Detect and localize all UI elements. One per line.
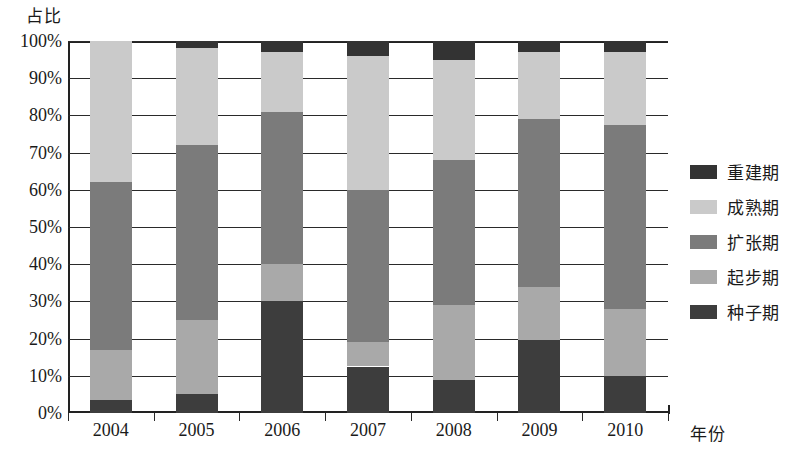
bar-segment-起步期: [433, 305, 475, 379]
x-axis-tick-label-2007: 2007: [333, 420, 403, 441]
bar-segment-成熟期: [261, 52, 303, 112]
bar-segment-扩张期: [176, 145, 218, 320]
y-axis-tick-label: 100%: [20, 32, 62, 50]
x-axis-tick: [497, 413, 498, 421]
bar-segment-种子期: [518, 340, 560, 413]
bar-segment-重建期: [261, 41, 303, 52]
bar-segment-成熟期: [604, 52, 646, 125]
y-axis-title: 占比: [26, 2, 62, 27]
bar-segment-重建期: [347, 41, 389, 56]
x-axis-tick: [68, 413, 69, 421]
x-axis-title: 年份: [690, 420, 726, 445]
bar-segment-起步期: [176, 320, 218, 394]
x-axis-tick: [582, 413, 583, 421]
bar-segment-扩张期: [90, 182, 132, 349]
bar-segment-成熟期: [176, 48, 218, 145]
legend-item-重建期[interactable]: 重建期: [690, 154, 780, 189]
x-axis-tick-label-2006: 2006: [247, 420, 317, 441]
stacked-bar-chart: 占比 0%10%20%30%40%50%60%70%80%90%100% 200…: [0, 0, 812, 450]
bar-segment-扩张期: [261, 112, 303, 265]
x-axis-tick: [325, 413, 326, 421]
bar-segment-种子期: [433, 380, 475, 413]
bar-segment-重建期: [176, 41, 218, 48]
x-axis-tick-label-2005: 2005: [162, 420, 232, 441]
x-axis-tick: [154, 413, 155, 421]
bar-segment-成熟期: [433, 60, 475, 160]
legend-item-起步期[interactable]: 起步期: [690, 259, 780, 294]
legend-label: 种子期: [727, 299, 780, 324]
bar-segment-成熟期: [347, 56, 389, 190]
bar-segment-种子期: [604, 376, 646, 413]
bar-segment-种子期: [176, 394, 218, 413]
bar-segment-扩张期: [518, 119, 560, 286]
bar-segment-起步期: [604, 309, 646, 376]
y-axis-tick-labels: 0%10%20%30%40%50%60%70%80%90%100%: [0, 41, 62, 413]
bars-layer: [68, 41, 668, 413]
x-axis-tick-label-2008: 2008: [419, 420, 489, 441]
x-axis-tick: [411, 413, 412, 421]
legend-label: 成熟期: [727, 194, 780, 219]
legend-label: 扩张期: [727, 229, 780, 254]
legend-item-成熟期[interactable]: 成熟期: [690, 189, 780, 224]
bar-segment-成熟期: [518, 52, 560, 119]
x-axis-tick: [239, 413, 240, 421]
bar-segment-重建期: [518, 41, 560, 52]
bar-segment-起步期: [90, 350, 132, 400]
x-axis-tick-label-2009: 2009: [504, 420, 574, 441]
y-axis-tick-label: 80%: [29, 106, 62, 124]
legend: 重建期成熟期扩张期起步期种子期: [690, 154, 780, 329]
y-axis-tick-label: 20%: [29, 330, 62, 348]
legend-label: 重建期: [727, 159, 780, 184]
legend-swatch-icon: [690, 270, 717, 284]
bar-2007: [347, 41, 389, 413]
bar-segment-种子期: [90, 400, 132, 413]
y-axis-tick-label: 50%: [29, 218, 62, 236]
bar-segment-成熟期: [90, 41, 132, 182]
legend-swatch-icon: [690, 200, 717, 214]
bar-segment-扩张期: [347, 190, 389, 343]
legend-item-种子期[interactable]: 种子期: [690, 294, 780, 329]
bar-2006: [261, 41, 303, 413]
legend-swatch-icon: [690, 235, 717, 249]
x-axis-tick-label-2010: 2010: [590, 420, 660, 441]
legend-item-扩张期[interactable]: 扩张期: [690, 224, 780, 259]
x-axis-end-tick: [668, 405, 670, 414]
bar-segment-扩张期: [433, 160, 475, 305]
x-axis-tick: [668, 413, 669, 421]
y-axis-tick-label: 70%: [29, 144, 62, 162]
bar-2008: [433, 41, 475, 413]
y-axis-tick-label: 90%: [29, 69, 62, 87]
bar-segment-扩张期: [604, 125, 646, 309]
bar-segment-重建期: [433, 41, 475, 60]
y-axis-tick-label: 60%: [29, 181, 62, 199]
bar-2005: [176, 41, 218, 413]
y-axis-tick-label: 40%: [29, 255, 62, 273]
bar-segment-种子期: [261, 301, 303, 413]
y-axis-tick-label: 10%: [29, 367, 62, 385]
plot-area: [68, 41, 668, 413]
bar-2004: [90, 41, 132, 413]
legend-label: 起步期: [727, 264, 780, 289]
bar-segment-起步期: [518, 287, 560, 341]
legend-swatch-icon: [690, 165, 717, 179]
bar-segment-重建期: [604, 41, 646, 52]
bar-2010: [604, 41, 646, 413]
y-axis-tick-label: 0%: [38, 404, 62, 422]
bar-segment-种子期: [347, 367, 389, 414]
bar-segment-起步期: [261, 264, 303, 301]
x-axis-tick-label-2004: 2004: [76, 420, 146, 441]
y-axis-tick-label: 30%: [29, 292, 62, 310]
bar-segment-起步期: [347, 342, 389, 366]
bar-2009: [518, 41, 560, 413]
legend-swatch-icon: [690, 305, 717, 319]
